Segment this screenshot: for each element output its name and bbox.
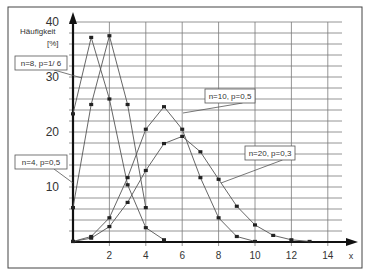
- data-point-marker: [162, 105, 166, 108]
- x-tick-label: 4: [143, 250, 149, 261]
- data-point-marker: [162, 142, 166, 145]
- data-point-marker: [89, 36, 93, 39]
- data-point-marker: [162, 238, 166, 241]
- data-point-marker: [198, 176, 202, 179]
- data-point-marker: [71, 240, 75, 243]
- data-point-marker: [126, 176, 130, 179]
- y-axis-label: Häufigkeit: [20, 27, 56, 36]
- data-point-marker: [308, 240, 312, 243]
- data-point-marker: [71, 206, 75, 209]
- data-point-marker: [89, 103, 93, 106]
- data-point-marker: [107, 97, 111, 100]
- y-tick-label: 30: [46, 70, 60, 84]
- x-axis-label: x: [349, 251, 354, 261]
- data-point-marker: [89, 237, 93, 240]
- data-point-marker: [235, 235, 239, 238]
- data-point-marker: [126, 103, 130, 106]
- data-point-marker: [71, 112, 75, 115]
- y-tick-label: 10: [46, 180, 60, 194]
- binomial-distribution-chart: n=8, p=1/ 6n=4, p=0,5n=10, p=0,5n=20, p=…: [0, 0, 366, 275]
- data-point-marker: [198, 150, 202, 153]
- data-point-marker: [180, 135, 184, 138]
- data-point-marker: [144, 206, 148, 209]
- data-point-marker: [144, 226, 148, 229]
- data-point-marker: [180, 128, 184, 131]
- legend-text: n=8, p=1/ 6: [21, 59, 62, 68]
- data-point-marker: [253, 240, 257, 243]
- legend-text: n=4, p=0,5: [22, 158, 61, 167]
- data-point-marker: [107, 216, 111, 219]
- y-axis-unit-label: [%]: [47, 39, 59, 48]
- data-point-marker: [289, 238, 293, 241]
- x-tick-label: 6: [179, 250, 185, 261]
- data-point-marker: [107, 225, 111, 228]
- data-point-marker: [107, 34, 111, 37]
- data-point-marker: [144, 128, 148, 131]
- data-point-marker: [126, 183, 130, 186]
- data-point-marker: [271, 234, 275, 237]
- x-tick-label: 12: [286, 250, 298, 261]
- x-tick-label: 10: [249, 250, 261, 261]
- data-point-marker: [126, 201, 130, 204]
- x-tick-label: 2: [107, 250, 113, 261]
- y-tick-label: 20: [46, 125, 60, 139]
- x-tick-label: 8: [216, 250, 222, 261]
- x-tick-label: 14: [322, 250, 334, 261]
- legend-text: n=10, p=0,5: [209, 92, 252, 101]
- data-point-marker: [235, 205, 239, 208]
- legend-text: n=20, p=0,3: [249, 149, 292, 158]
- data-point-marker: [217, 178, 221, 181]
- data-point-marker: [144, 169, 148, 172]
- data-point-marker: [253, 223, 257, 226]
- data-point-marker: [217, 216, 221, 219]
